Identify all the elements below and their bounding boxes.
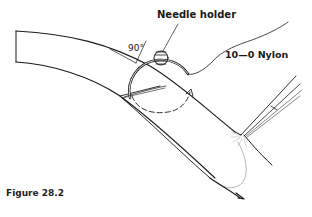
figure-caption: Figure 28.2 bbox=[6, 189, 64, 198]
surgical-illustration bbox=[0, 0, 312, 217]
forceps-arm-2 bbox=[245, 90, 302, 137]
tissue-right-edge bbox=[244, 135, 272, 165]
needle-holder-label: Needle holder bbox=[157, 10, 236, 20]
suture-label: 10—0 Nylon bbox=[225, 50, 288, 60]
needle-holder-tip-icon bbox=[154, 51, 168, 65]
curved-needle bbox=[129, 60, 188, 98]
tissue-corner bbox=[235, 132, 241, 135]
tissue-fold bbox=[216, 142, 246, 188]
forceps-arm-inner bbox=[244, 84, 300, 136]
tissue-tip bbox=[210, 178, 240, 198]
tissue-body-left bbox=[122, 98, 210, 178]
forceps-arm-3 bbox=[246, 96, 300, 138]
needle-holder-hatch bbox=[155, 52, 167, 64]
tissue-flap-upper-edge bbox=[16, 31, 235, 132]
figure-canvas: Needle holder 10—0 Nylon 90° Figure 28.2 bbox=[0, 0, 312, 217]
tissue-flap-lower-edge bbox=[16, 62, 215, 178]
needle-holder-leader bbox=[163, 24, 178, 51]
angle-label: 90° bbox=[128, 44, 144, 53]
rotation-arrow-dashed bbox=[132, 92, 190, 113]
incision-edge bbox=[120, 86, 160, 96]
